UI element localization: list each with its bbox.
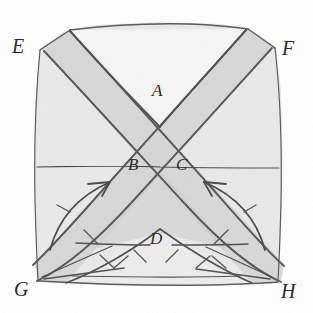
figure-canvas: E F G H A B C D — [0, 0, 313, 313]
vertex-label-D: D — [150, 230, 162, 247]
vertex-label-F: F — [282, 38, 294, 58]
vertex-label-A: A — [152, 82, 162, 99]
vertex-label-G: G — [14, 279, 28, 299]
vertex-label-E: E — [12, 36, 24, 56]
paper-grain-overlay — [0, 0, 313, 313]
vertex-label-H: H — [281, 281, 295, 301]
vertex-label-B: B — [128, 156, 138, 173]
diagram-svg — [0, 0, 313, 313]
vertex-label-C: C — [176, 156, 187, 173]
